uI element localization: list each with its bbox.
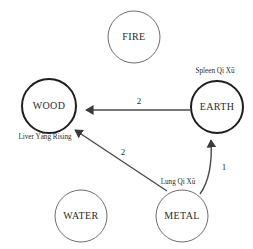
edge-weight-earth-to-wood: 2 bbox=[137, 96, 142, 106]
edge-metal-to-wood: 2 bbox=[75, 130, 167, 191]
node-water[interactable]: WATER bbox=[55, 190, 107, 242]
five-elements-diagram: 221 FIREWOODEARTHWATERMETAL Spleen Qi Xū… bbox=[0, 0, 253, 249]
edge-earth-to-wood: 2 bbox=[86, 96, 190, 110]
node-label-fire: FIRE bbox=[122, 31, 145, 42]
node-label-water: WATER bbox=[63, 210, 98, 221]
nodes-layer: FIREWOODEARTHWATERMETAL bbox=[22, 11, 243, 242]
node-wood[interactable]: WOOD bbox=[22, 79, 76, 133]
annotation-liver-yang-rising: Liver Yáng Rising bbox=[18, 133, 72, 141]
node-label-metal: METAL bbox=[164, 210, 200, 221]
edge-metal-to-earth: 1 bbox=[200, 140, 226, 194]
node-earth[interactable]: EARTH bbox=[191, 81, 243, 133]
annotation-spleen-qi-xu: Spleen Qi Xū bbox=[195, 67, 235, 75]
edge-line-metal-to-wood bbox=[75, 130, 167, 191]
edge-weight-metal-to-earth: 1 bbox=[222, 162, 227, 172]
edge-line-metal-to-earth bbox=[200, 140, 211, 194]
edge-weight-metal-to-wood: 2 bbox=[121, 147, 126, 157]
node-fire[interactable]: FIRE bbox=[108, 11, 160, 63]
annotation-lung-qi-xu: Lung Qi Xū bbox=[161, 178, 196, 186]
node-label-wood: WOOD bbox=[33, 100, 66, 111]
diagram-canvas: 221 FIREWOODEARTHWATERMETAL Spleen Qi Xū… bbox=[0, 0, 253, 249]
node-metal[interactable]: METAL bbox=[156, 190, 208, 242]
node-label-earth: EARTH bbox=[200, 101, 235, 112]
